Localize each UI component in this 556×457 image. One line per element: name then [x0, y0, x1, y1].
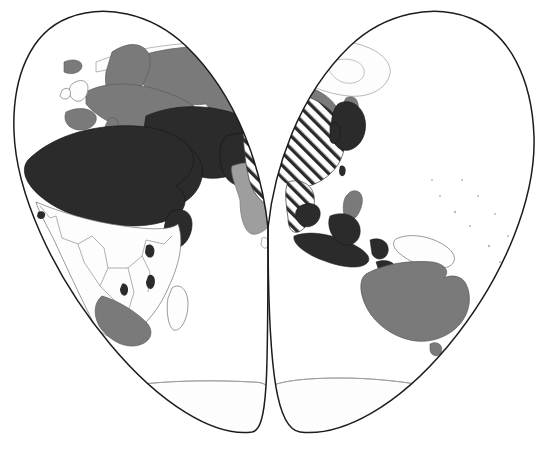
region-southern-europe	[65, 109, 96, 130]
world-map-svg	[0, 0, 556, 457]
world-map-figure	[0, 0, 556, 457]
region-taiwan	[339, 165, 346, 176]
region-tasmania	[430, 343, 442, 356]
